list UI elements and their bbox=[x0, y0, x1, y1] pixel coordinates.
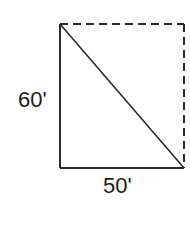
height-label: 60' bbox=[18, 89, 47, 111]
hypotenuse-diagonal bbox=[60, 24, 184, 168]
width-label: 50' bbox=[103, 175, 132, 197]
